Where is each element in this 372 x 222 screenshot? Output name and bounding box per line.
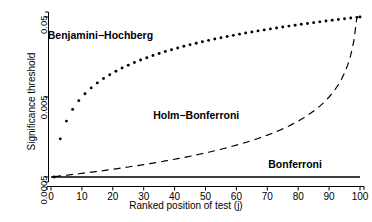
data-point — [170, 48, 173, 51]
data-point — [300, 23, 303, 26]
data-point — [139, 59, 142, 62]
data-point — [287, 25, 290, 28]
data-point — [257, 29, 260, 32]
data-point — [84, 92, 87, 95]
data-point — [189, 43, 192, 46]
data-point — [127, 64, 130, 67]
data-point — [59, 137, 62, 140]
data-point — [114, 70, 117, 73]
axis-lines — [45, 12, 364, 191]
data-point — [250, 31, 253, 34]
data-point — [238, 33, 241, 36]
data-point — [294, 24, 297, 27]
data-point — [226, 35, 229, 38]
data-point — [176, 47, 179, 50]
data-point — [90, 86, 93, 89]
data-point — [102, 77, 105, 80]
data-point — [96, 81, 99, 84]
data-point — [201, 40, 204, 43]
data-series — [51, 16, 361, 179]
data-point — [244, 32, 247, 35]
data-point — [164, 50, 167, 53]
data-point — [65, 120, 68, 123]
data-point — [312, 21, 315, 24]
data-point — [207, 39, 210, 42]
data-point — [152, 54, 155, 57]
data-point — [337, 18, 340, 21]
data-point — [71, 108, 74, 111]
data-point — [121, 67, 124, 70]
data-point — [269, 27, 272, 30]
plot-canvas — [0, 0, 372, 222]
chart-figure: Significance threshold Ranked position o… — [0, 0, 372, 222]
data-point — [343, 17, 346, 20]
data-point — [108, 73, 111, 76]
data-point — [133, 61, 136, 64]
data-point — [349, 17, 352, 20]
data-point — [213, 38, 216, 41]
series-line-holm-bonferroni — [54, 17, 360, 177]
data-point — [359, 16, 362, 19]
data-point — [318, 20, 321, 23]
data-point — [275, 26, 278, 29]
data-point — [281, 26, 284, 29]
data-point — [77, 99, 80, 102]
series-points-benjamini-hochberg — [53, 16, 362, 179]
data-point — [263, 28, 266, 31]
data-point — [325, 20, 328, 23]
data-point — [195, 42, 198, 45]
data-point — [232, 34, 235, 37]
data-point — [158, 52, 161, 55]
data-point — [306, 22, 309, 25]
data-point — [220, 36, 223, 39]
data-point — [182, 45, 185, 48]
data-point — [331, 19, 334, 22]
data-point — [145, 56, 148, 59]
